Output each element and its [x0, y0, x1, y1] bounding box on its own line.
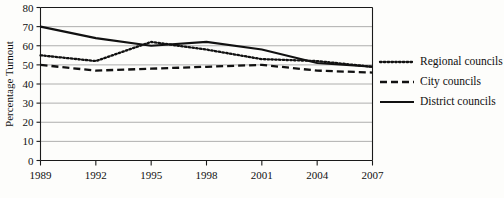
gridlines [41, 8, 373, 142]
y-tick-label: 20 [23, 116, 35, 128]
legend-label-regional-councils: Regional councils [420, 55, 503, 68]
series-line-city-councils [41, 65, 373, 73]
chart-figure: 01020304050607080 1989199219951998200120… [0, 0, 504, 198]
x-tick-label: 1989 [30, 169, 53, 181]
y-tick-label: 30 [23, 97, 35, 109]
y-tick-label: 70 [23, 21, 35, 33]
data-series [41, 27, 373, 73]
y-tick-label: 0 [28, 155, 34, 167]
legend: Regional councilsCity councilsDistrict c… [380, 55, 503, 107]
x-tick-label: 2004 [306, 169, 329, 181]
x-tick-label: 2001 [251, 169, 273, 181]
legend-label-city-councils: City councils [420, 75, 482, 88]
x-tick-label: 2007 [362, 169, 385, 181]
y-tick-label: 60 [23, 40, 35, 52]
y-tick-label: 50 [23, 59, 35, 71]
y-tick-label: 10 [23, 135, 35, 147]
line-chart: 01020304050607080 1989199219951998200120… [0, 0, 504, 198]
y-tick-label: 40 [23, 78, 35, 90]
x-axis [41, 8, 373, 166]
y-tick-label: 80 [23, 2, 35, 14]
x-tick-label: 1998 [196, 169, 219, 181]
y-tick-labels: 01020304050607080 [23, 2, 35, 167]
x-tick-label: 1995 [140, 169, 163, 181]
y-axis [37, 8, 41, 161]
y-axis-title: Percentage Turnout [3, 41, 15, 127]
x-tick-labels: 1989199219951998200120042007 [30, 169, 385, 181]
legend-label-district-councils: District councils [420, 95, 496, 107]
x-tick-label: 1992 [85, 169, 107, 181]
y-axis-title-text: Percentage Turnout [3, 41, 15, 127]
